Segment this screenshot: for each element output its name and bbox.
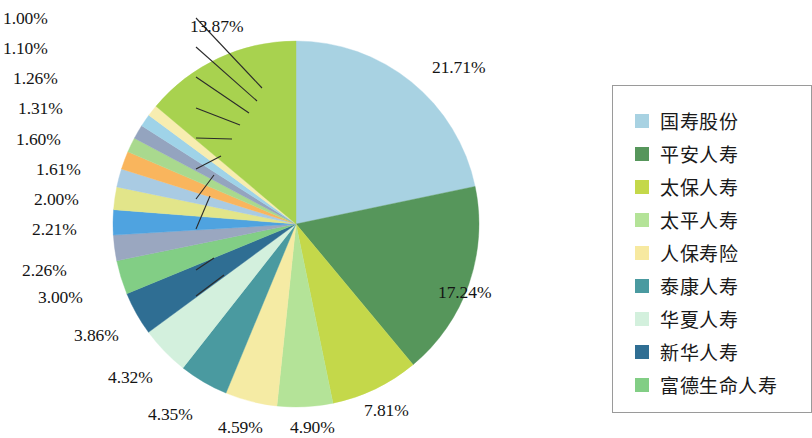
legend-item-label: 泰康人寿 bbox=[660, 272, 738, 299]
legend-item-label: 太保人寿 bbox=[660, 173, 738, 200]
slice-label-2-00: 2.00% bbox=[34, 189, 79, 210]
pie-slices-group bbox=[113, 41, 479, 407]
legend-item[interactable]: 太保人寿 bbox=[635, 170, 811, 203]
slice-label-4-32: 4.32% bbox=[108, 367, 153, 388]
slice-label-1-26: 1.26% bbox=[13, 68, 58, 89]
slice-label-1-60: 1.60% bbox=[16, 129, 61, 150]
legend-item[interactable]: 华夏人寿 bbox=[635, 302, 811, 335]
legend-item-label: 富德生命人寿 bbox=[660, 371, 777, 398]
legend-item[interactable]: 平安人寿 bbox=[635, 137, 811, 170]
legend-item-label: 平安人寿 bbox=[660, 140, 738, 167]
slice-label-13-87: 13.87% bbox=[190, 16, 243, 37]
legend-swatch-icon bbox=[635, 180, 649, 194]
slice-label-1-10: 1.10% bbox=[3, 38, 48, 59]
legend-item[interactable]: 富德生命人寿 bbox=[635, 368, 811, 401]
legend-swatch-icon bbox=[635, 378, 649, 392]
slice-label-3-00: 3.00% bbox=[38, 287, 83, 308]
legend-swatch-icon bbox=[635, 246, 649, 260]
legend-item[interactable]: 国寿股份 bbox=[635, 104, 811, 137]
slice-label-21-71: 21.71% bbox=[432, 57, 485, 78]
legend-swatch-icon bbox=[635, 279, 649, 293]
legend-item[interactable]: 太平人寿 bbox=[635, 203, 811, 236]
legend-item[interactable]: 泰康人寿 bbox=[635, 269, 811, 302]
slice-label-4-90: 4.90% bbox=[290, 417, 335, 438]
slice-label-2-26: 2.26% bbox=[22, 260, 67, 281]
legend-item-label: 新华人寿 bbox=[660, 338, 738, 365]
slice-label-4-59: 4.59% bbox=[218, 417, 263, 438]
slice-label-3-86: 3.86% bbox=[74, 325, 119, 346]
legend-swatch-icon bbox=[635, 114, 649, 128]
legend-item[interactable]: 人保寿险 bbox=[635, 236, 811, 269]
legend-swatch-icon bbox=[635, 213, 649, 227]
slice-label-1-00: 1.00% bbox=[3, 8, 48, 29]
slice-label-7-81: 7.81% bbox=[364, 400, 409, 421]
legend-item-label: 太平人寿 bbox=[660, 206, 738, 233]
slice-label-4-35: 4.35% bbox=[148, 404, 193, 425]
legend: 国寿股份平安人寿太保人寿太平人寿人保寿险泰康人寿华夏人寿新华人寿富德生命人寿 bbox=[612, 85, 812, 413]
pie-svg bbox=[0, 0, 600, 438]
slice-label-2-21: 2.21% bbox=[32, 219, 77, 240]
pie-chart-area bbox=[0, 0, 600, 438]
legend-item-label: 人保寿险 bbox=[660, 239, 738, 266]
legend-item-label: 国寿股份 bbox=[660, 107, 738, 134]
slice-label-1-61: 1.61% bbox=[36, 159, 81, 180]
slice-label-17-24: 17.24% bbox=[438, 282, 491, 303]
legend-swatch-icon bbox=[635, 345, 649, 359]
legend-item[interactable]: 新华人寿 bbox=[635, 335, 811, 368]
slice-label-1-31: 1.31% bbox=[18, 98, 63, 119]
legend-item-label: 华夏人寿 bbox=[660, 305, 738, 332]
legend-swatch-icon bbox=[635, 312, 649, 326]
legend-swatch-icon bbox=[635, 147, 649, 161]
